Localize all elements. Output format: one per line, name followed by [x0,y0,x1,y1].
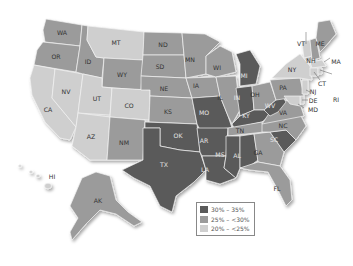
label-ut: UT [93,95,102,102]
label-wv: WV [265,102,276,109]
state-fl[interactable] [240,162,292,206]
label-nv: NV [62,88,72,95]
label-oh: OH [250,91,260,98]
label-sd: SD [156,63,165,70]
label-ga: GA [253,149,263,156]
label-nh: NH [306,57,316,64]
label-pa: PA [279,84,287,91]
label-ks: KS [164,108,172,115]
label-nc: NC [279,122,288,129]
label-id: ID [85,58,92,65]
label-ct: CT [318,80,326,87]
label-mo: MO [199,109,209,116]
label-ar: AR [200,137,209,144]
state-hi-island-2[interactable] [36,175,40,178]
label-ia: IA [193,82,200,89]
label-wi: WI [213,64,221,71]
state-ia[interactable] [186,77,220,98]
label-md: MD [308,106,318,113]
label-nd: ND [158,41,168,48]
state-ri[interactable] [318,68,322,74]
legend-swatch-light [200,225,208,232]
label-de: DE [309,97,318,104]
state-mi[interactable] [236,50,260,86]
label-ri: RI [333,96,339,103]
label-in: IN [234,94,241,101]
label-mn: MN [185,56,195,63]
label-ny: NY [288,66,297,73]
state-hi[interactable] [45,183,52,189]
state-nj[interactable] [302,80,308,94]
label-tx: TX [159,161,169,168]
label-nm: NM [119,139,129,146]
label-me: ME [315,40,324,47]
label-ma: MA [331,58,341,65]
label-ak: AK [94,197,103,204]
label-nj: NJ [310,88,317,96]
legend-label-light: 20% – <25% [211,225,250,232]
label-vt: VT [297,40,305,47]
label-la: LA [201,166,210,173]
state-hi-island-4[interactable] [19,165,22,167]
label-ok: OK [174,132,184,139]
label-il: IL [217,94,223,101]
label-or: OR [51,53,61,60]
legend-item-medium: 25% – <30% [200,215,251,225]
label-mt: MT [111,39,120,46]
legend-item-dark: 30% – 35% [200,205,251,215]
state-hi-island-3[interactable] [29,171,33,174]
us-choropleth-map: WA OR CA NV ID MT WY UT CO AZ NM ND SD N… [0,0,353,266]
label-ca: CA [44,106,53,113]
label-va: VA [279,109,288,116]
label-ne: NE [160,85,169,92]
leader-ma [324,58,330,62]
label-wa: WA [57,29,68,36]
legend-swatch-medium [200,216,208,223]
state-ak[interactable] [70,172,142,240]
label-al: AL [233,152,241,159]
legend-label-dark: 30% – 35% [211,206,245,213]
label-ky: KY [242,112,250,119]
label-tn: TN [235,127,245,134]
legend: 30% – 35% 25% – <30% 20% – <25% [196,202,255,236]
label-wy: WY [117,71,127,78]
label-hi: HI [49,173,56,180]
state-ks[interactable] [149,96,197,124]
label-fl: FL [273,185,281,192]
state-me[interactable] [316,20,336,52]
label-sc: SC [270,136,278,143]
label-az: AZ [87,133,95,140]
label-ms: MS [215,151,224,158]
legend-swatch-dark [200,206,208,213]
legend-label-medium: 25% – <30% [211,216,250,223]
legend-item-light: 20% – <25% [200,224,251,234]
label-co: CO [124,102,133,109]
label-mi: MI [240,72,247,79]
